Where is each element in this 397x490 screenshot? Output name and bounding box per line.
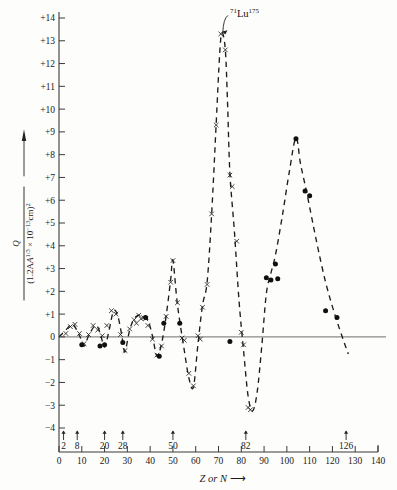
magic-number-arrowhead (344, 430, 348, 433)
denominator-open: (1.2A (25, 263, 35, 284)
dot-marker (273, 262, 278, 267)
x-axis-title: Z or N ⟶ (199, 473, 245, 484)
dot-marker (268, 277, 273, 282)
y-axis-denominator: (1.2AA1/3 × 10−13cm)2 (24, 203, 36, 284)
y-axis-arrowhead (22, 130, 26, 141)
y-tick-label: 0 (50, 332, 55, 342)
x-tick-label: 110 (303, 456, 317, 466)
annotation-leader-line (223, 15, 228, 32)
dot-marker (307, 193, 312, 198)
cross-marker (64, 331, 69, 336)
magic-number-label: 82 (241, 441, 251, 451)
y-tick-label: +14 (40, 13, 55, 23)
denominator-square-exponent: 2 (24, 203, 31, 206)
denominator-ten-exponent: −13 (24, 220, 31, 230)
cross-marker (234, 239, 239, 244)
y-axis-numerator: Q (11, 240, 21, 247)
x-tick-label: 20 (100, 456, 110, 466)
cross-marker (159, 344, 164, 349)
figure-container: −4−3−2−10+1+2+3+4+5+6+7+8+9+10+11+12+13+… (0, 0, 397, 490)
dot-marker (98, 344, 103, 349)
denominator-A-exponent: 1/3 (24, 249, 31, 257)
dot-marker (102, 342, 107, 347)
dot-marker (120, 340, 125, 345)
x-axis-title-text: Z or N (199, 473, 229, 484)
x-tick-label: 140 (371, 456, 386, 466)
magic-number-label: 28 (118, 441, 128, 451)
dot-marker (303, 189, 308, 194)
x-tick-label: 50 (168, 456, 178, 466)
cross-marker (118, 332, 123, 337)
x-tick-label: 10 (77, 456, 87, 466)
annotation-label: 71Lu175 (230, 7, 260, 19)
dot-marker (334, 315, 339, 320)
y-tick-label: +5 (45, 218, 55, 228)
x-tick-label: 130 (348, 456, 363, 466)
cross-marker (187, 371, 192, 376)
dot-marker (143, 315, 148, 320)
denominator-units: cm) (25, 206, 35, 220)
magic-number-arrowhead (121, 430, 125, 433)
magic-number-arrowhead (61, 430, 65, 433)
x-tick-label: 40 (145, 456, 155, 466)
magic-number-arrowhead (102, 430, 106, 433)
y-tick-label: −4 (45, 423, 55, 433)
y-tick-label: +8 (45, 150, 55, 160)
dot-marker (79, 342, 84, 347)
dot-marker (161, 321, 166, 326)
annotation-group: 71Lu175 (222, 7, 259, 34)
magic-number-label: 20 (100, 441, 110, 451)
magic-number-label: 2 (61, 441, 66, 451)
cross-marker (109, 308, 114, 313)
dot-marker (157, 354, 162, 359)
y-tick-label: +2 (45, 287, 55, 297)
y-tick-label: +10 (40, 105, 55, 115)
dot-marker (227, 339, 232, 344)
nuclear-quadrupole-moment-chart: −4−3−2−10+1+2+3+4+5+6+7+8+9+10+11+12+13+… (0, 0, 397, 490)
y-tick-label: −2 (45, 378, 55, 388)
y-tick-label: +9 (45, 127, 55, 137)
x-axis-arrow-glyph: ⟶ (230, 473, 246, 484)
y-tick-label: −1 (45, 355, 55, 365)
quadrupole-trend-curve (59, 33, 348, 411)
magic-number-label: 50 (168, 441, 178, 451)
x-tick-label: 70 (214, 456, 224, 466)
dashed-interpolating-curve (59, 33, 348, 411)
y-tick-label: +6 (45, 196, 55, 206)
y-tick-label: +3 (45, 264, 55, 274)
x-tick-label: 90 (259, 456, 269, 466)
x-tick-label: 120 (325, 456, 340, 466)
y-tick-label: +7 (45, 173, 55, 183)
x-tick-label: 60 (191, 456, 201, 466)
x-tick-label: 0 (57, 456, 62, 466)
x-tick-label: 80 (237, 456, 247, 466)
magic-number-arrowhead (244, 430, 248, 433)
y-tick-label: +11 (40, 82, 55, 92)
y-tick-label: +12 (40, 59, 55, 69)
x-tick-label: 30 (123, 456, 133, 466)
y-tick-label: +13 (40, 36, 55, 46)
magic-number-label: 8 (75, 441, 80, 451)
magic-number-label: 126 (339, 441, 354, 451)
annotation-mass-number: 175 (249, 7, 260, 15)
cross-marker (127, 327, 132, 332)
x-tick-label: 100 (280, 456, 295, 466)
y-tick-label: +1 (45, 310, 55, 320)
cross-marker (105, 323, 110, 328)
dot-marker (264, 275, 269, 280)
cross-marker (223, 48, 228, 53)
dot-marker (323, 308, 328, 313)
y-axis-ticks-group: −4−3−2−10+1+2+3+4+5+6+7+8+9+10+11+12+13+… (40, 13, 65, 433)
cross-marker (248, 407, 253, 412)
magic-number-arrowhead (75, 430, 79, 433)
magic-number-arrowhead (171, 430, 175, 433)
dot-marker (275, 276, 280, 281)
y-tick-label: +4 (45, 241, 55, 251)
cross-marker (205, 282, 210, 287)
cross-marker (214, 123, 219, 128)
annotation-element-symbol: Lu (237, 8, 249, 19)
denominator-times-ten: × 10 (25, 230, 35, 249)
y-tick-label: −3 (45, 401, 55, 411)
dot-marker (177, 321, 182, 326)
dot-marker (293, 136, 298, 141)
